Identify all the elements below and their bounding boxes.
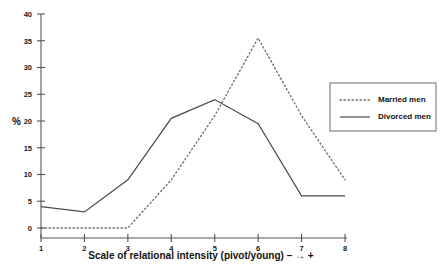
y-tick-label-10: 10: [24, 170, 32, 179]
x-tick-label-2: 2: [82, 244, 86, 253]
legend-box: [330, 83, 436, 131]
y-tick-label-5: 5: [28, 197, 32, 206]
y-tick-label-15: 15: [24, 144, 32, 153]
y-tick-label-30: 30: [24, 63, 32, 72]
y-axis-title: %: [12, 116, 21, 127]
series-line-divorced-men: [41, 100, 345, 212]
series-line-married-men: [41, 38, 345, 228]
y-axis-group: 0510152025303540 %: [12, 10, 45, 238]
legend-label-divorced-men: Divorced men: [378, 112, 431, 121]
x-axis-title: Scale of relational intensity (pivot/you…: [88, 250, 313, 261]
y-tick-label-40: 40: [24, 10, 32, 19]
data-series-group: [41, 38, 345, 228]
x-tick-label-8: 8: [343, 244, 347, 253]
y-axis-tick-labels: 0510152025303540: [24, 10, 32, 233]
y-tick-label-0: 0: [28, 224, 32, 233]
chart-container: 0510152025303540 % 12345678 Scale of rel…: [0, 0, 442, 269]
x-axis-group: 12345678 Scale of relational intensity (…: [39, 234, 347, 261]
y-tick-label-25: 25: [24, 90, 32, 99]
chart-legend: Married menDivorced men: [330, 83, 436, 131]
legend-label-married-men: Married men: [378, 95, 426, 104]
y-tick-label-35: 35: [24, 37, 32, 46]
y-tick-label-20: 20: [24, 117, 32, 126]
x-tick-label-1: 1: [39, 244, 43, 253]
line-chart-svg: 0510152025303540 % 12345678 Scale of rel…: [0, 0, 442, 269]
